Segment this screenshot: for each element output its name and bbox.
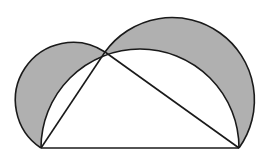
lunes-diagram <box>0 0 268 160</box>
